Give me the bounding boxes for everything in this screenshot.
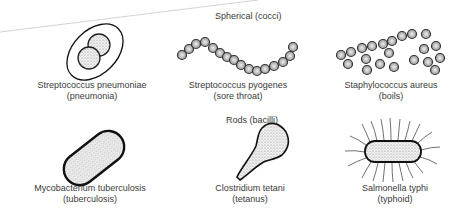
streptococcus-pyogenes-icon [178, 38, 298, 76]
section-heading-spherical: Spherical (cocci) [215, 11, 282, 21]
organism-name: Staphylococcus aureus [336, 80, 446, 91]
organism-name: Streptococcus pyogenes [178, 80, 298, 91]
section-heading-rods: Rods (bacilli) [226, 115, 278, 125]
salmonella-typhi-icon [345, 118, 440, 182]
organism-name: Salmonella typhi [350, 183, 440, 194]
organism-name: Clostridium tetani [195, 183, 305, 194]
disease-name: (sore throat) [178, 91, 298, 102]
organism-name: Mycobacterium tuberculosis [20, 183, 160, 194]
mycobacterium-tuberculosis-icon [57, 124, 130, 191]
clostridium-tetani-icon [237, 123, 288, 180]
label-staphylococcus-aureus: Staphylococcus aureus (boils) [336, 80, 446, 102]
disease-name: (tetanus) [195, 194, 305, 205]
organism-name: Streptococcus pneumoniae [22, 80, 162, 91]
label-salmonella-typhi: Salmonella typhi (typhoid) [350, 183, 440, 205]
label-streptococcus-pneumoniae: Streptococcus pneumoniae (pneumonia) [22, 80, 162, 102]
disease-name: (typhoid) [350, 194, 440, 205]
disease-name: (tuberculosis) [20, 194, 160, 205]
disease-name: (boils) [336, 91, 446, 102]
staphylococcus-aureus-icon [337, 30, 445, 75]
label-streptococcus-pyogenes: Streptococcus pyogenes (sore throat) [178, 80, 298, 102]
disease-name: (pneumonia) [22, 91, 162, 102]
label-clostridium-tetani: Clostridium tetani (tetanus) [195, 183, 305, 205]
label-mycobacterium-tuberculosis: Mycobacterium tuberculosis (tuberculosis… [20, 183, 160, 205]
